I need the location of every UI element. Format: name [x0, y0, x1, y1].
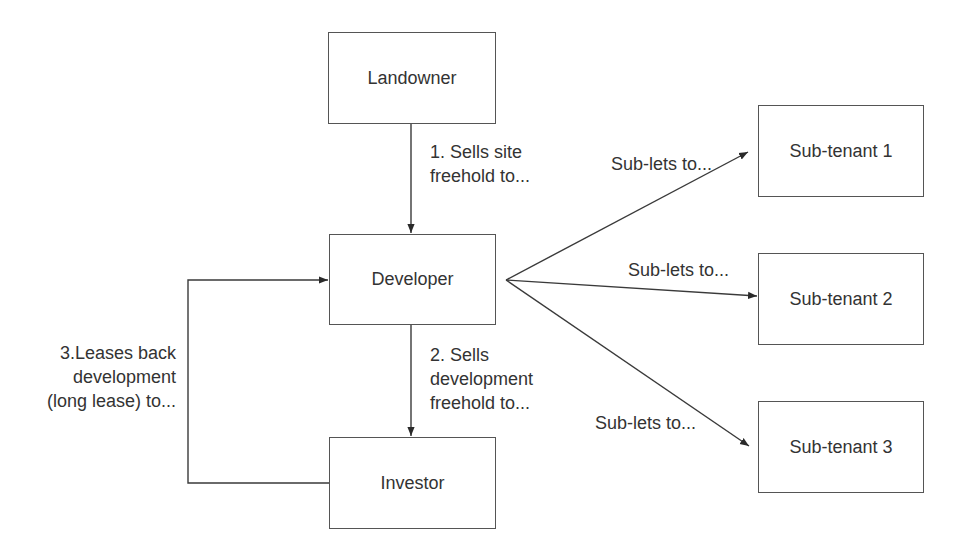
- edge-label-step1: 1. Sells site freehold to...: [430, 140, 530, 188]
- edge-label-sublet-3: Sub-lets to...: [595, 411, 696, 435]
- edge-label-step2-line1: 2. Sells: [430, 343, 533, 367]
- edge-label-step2: 2. Sells development freehold to...: [430, 343, 533, 415]
- node-landowner: Landowner: [328, 32, 496, 124]
- edge-label-step3-line2: development: [47, 365, 176, 389]
- edge-label-sublet-2: Sub-lets to...: [628, 258, 729, 282]
- node-subtenant-1: Sub-tenant 1: [758, 105, 924, 197]
- node-subtenant-3: Sub-tenant 3: [758, 401, 924, 493]
- node-subtenant-2: Sub-tenant 2: [758, 253, 924, 345]
- edge-label-step1-line1: 1. Sells site: [430, 140, 530, 164]
- node-developer: Developer: [329, 234, 496, 325]
- edge-label-step2-line2: development: [430, 367, 533, 391]
- arrow-developer-to-subtenant2: [506, 280, 757, 296]
- edge-label-sublet-1: Sub-lets to...: [611, 152, 712, 176]
- arrow-investor-to-developer: [188, 280, 329, 483]
- node-landowner-label: Landowner: [367, 68, 456, 89]
- edge-label-step3: 3.Leases back development (long lease) t…: [47, 341, 176, 413]
- edge-label-step1-line2: freehold to...: [430, 164, 530, 188]
- edge-label-step3-line1: 3.Leases back: [47, 341, 176, 365]
- node-subtenant-3-label: Sub-tenant 3: [789, 437, 892, 458]
- node-developer-label: Developer: [371, 269, 453, 290]
- node-subtenant-1-label: Sub-tenant 1: [789, 141, 892, 162]
- edge-label-step2-line3: freehold to...: [430, 391, 533, 415]
- node-investor-label: Investor: [380, 473, 444, 494]
- edge-label-step3-line3: (long lease) to...: [47, 389, 176, 413]
- node-subtenant-2-label: Sub-tenant 2: [789, 289, 892, 310]
- node-investor: Investor: [329, 437, 496, 529]
